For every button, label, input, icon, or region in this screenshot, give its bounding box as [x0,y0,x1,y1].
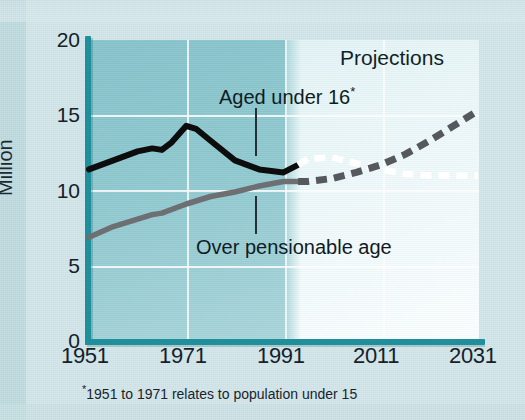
annotation-over-pensionable-age: Over pensionable age [196,236,392,259]
y-tick-5: 5 [40,255,80,276]
background-left-strip [0,0,26,420]
x-tick-1971: 1971 [159,345,207,367]
annotation-projections: Projections [340,46,444,70]
x-tick-2011: 2011 [353,345,399,367]
x-tick-2031: 2031 [449,345,497,367]
footnote-text: 1951 to 1971 relates to population under… [86,386,357,402]
gridline-x-2011 [383,40,385,341]
chart-root: 20 15 10 5 0 Million 1951 1971 1991 2011… [0,0,525,420]
y-axis-shadow [91,38,93,345]
chart-footnote: *1951 to 1971 relates to population unde… [82,383,357,402]
y-tick-15: 15 [40,104,80,125]
annotation-aged-under-16-asterisk: * [350,84,355,99]
annotation-aged-under-16: Aged under 16* [219,84,355,109]
y-axis [85,36,91,345]
gridline-y-15 [89,115,479,117]
gridline-y-10 [89,190,479,192]
y-axis-title: Million [0,139,17,196]
y-tick-20: 20 [40,29,80,50]
gridline-x-1971 [187,40,189,341]
annotation-aged-under-16-text: Aged under 16 [219,86,350,108]
leader-line-aged-under-16 [255,108,257,156]
x-tick-1991: 1991 [257,345,305,367]
leader-line-over-pensionable-age [255,196,257,234]
gridline-y-5 [89,266,479,268]
y-tick-10: 10 [40,180,80,201]
x-tick-1951: 1951 [61,345,109,367]
